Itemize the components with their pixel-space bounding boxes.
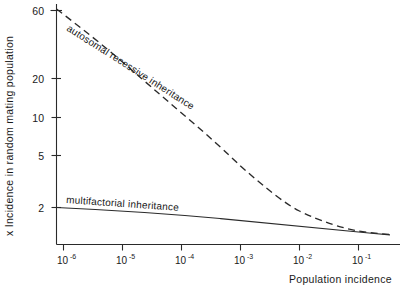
curve-multifactorial [57,208,391,235]
x-tick-label: 10 -3 [234,253,253,266]
x-tick-mantissa: 10 [234,255,246,266]
annotation-multifactorial: multifactorial inheritance [66,194,180,213]
x-tick-exponent: -4 [188,253,194,260]
x-axis-tick-labels: 10 -6 10 -5 10 -4 10 -3 10 -2 10 -1 [57,253,371,266]
x-tick-label: 10 -5 [116,253,135,266]
y-tick-label: 5 [38,150,44,162]
x-tick-label: 10 -2 [293,253,312,266]
y-tick-label: 60 [32,5,44,17]
chart-svg: 60 20 10 5 2 10 -6 10 -5 10 [0,0,418,289]
x-tick-label: 10 -1 [352,253,371,266]
y-tick-label: 20 [32,73,44,85]
x-tick-mantissa: 10 [293,255,305,266]
y-axis-title: x Incidence in random mating population [3,36,15,236]
x-tick-exponent: -6 [70,253,76,260]
y-tick-label: 10 [32,112,44,124]
y-tick-label: 2 [38,202,44,214]
y-axis-tick-labels: 60 20 10 5 2 [32,5,44,214]
x-tick-mantissa: 10 [116,255,128,266]
chart-figure: 60 20 10 5 2 10 -6 10 -5 10 [0,0,418,289]
annotation-autosomal-recessive: autosomal recessive inheritance [65,22,197,111]
x-tick-label: 10 -4 [175,253,194,266]
x-tick-mantissa: 10 [352,255,364,266]
x-axis-title: Population incidence [289,273,392,285]
x-tick-exponent: -1 [365,253,371,260]
x-tick-exponent: -2 [306,253,312,260]
x-tick-exponent: -3 [247,253,253,260]
x-axis-ticks [64,245,359,251]
x-tick-label: 10 -6 [57,253,76,266]
x-tick-mantissa: 10 [57,255,69,266]
x-tick-mantissa: 10 [175,255,187,266]
x-tick-exponent: -5 [129,253,135,260]
